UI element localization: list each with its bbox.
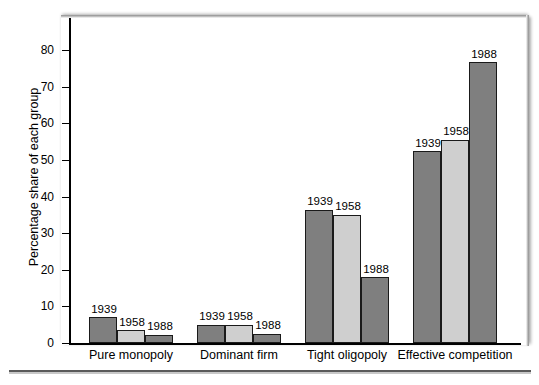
bar-1988-effective-competition[interactable] xyxy=(469,62,497,343)
y-tick-mark xyxy=(62,233,70,234)
y-tick-mark xyxy=(62,50,70,51)
bar-1939-dominant-firm[interactable] xyxy=(197,325,225,343)
bar-group-effective-competition: 193919581988 xyxy=(413,18,497,343)
bar-1988-dominant-firm[interactable] xyxy=(253,334,281,343)
y-tick-mark xyxy=(62,343,70,344)
bar-value-label: 1958 xyxy=(332,201,364,213)
bar-value-label: 1939 xyxy=(88,304,120,316)
bar-1939-effective-competition[interactable] xyxy=(413,151,441,343)
bar-1958-tight-oligopoly[interactable] xyxy=(333,215,361,343)
y-tick-mark xyxy=(62,306,70,307)
bar-value-label: 1958 xyxy=(440,126,472,138)
footer-rule-shadow xyxy=(9,372,531,374)
y-tick-mark xyxy=(62,87,70,88)
bar-value-label: 1988 xyxy=(144,321,176,333)
bar-groups: 1939195819881939195819881939195819881939… xyxy=(71,18,521,343)
x-axis-line xyxy=(69,343,521,345)
bar-chart-figure: 01020304050607080 Percentage share of ea… xyxy=(0,0,539,385)
bar-1988-tight-oligopoly[interactable] xyxy=(361,277,389,343)
y-tick-mark xyxy=(62,123,70,124)
bar-value-label: 1988 xyxy=(360,264,392,276)
x-label-effective-competition: Effective competition xyxy=(383,348,527,362)
bar-1939-pure-monopoly[interactable] xyxy=(89,317,117,343)
bar-group-pure-monopoly: 193919581988 xyxy=(89,18,173,343)
bar-value-label: 1988 xyxy=(252,320,284,332)
y-tick-label: 0 xyxy=(24,337,54,349)
y-tick-mark xyxy=(62,197,70,198)
y-axis-title: Percentage share of each group xyxy=(27,47,41,307)
frame-right-shadow xyxy=(526,15,529,346)
bar-1939-tight-oligopoly[interactable] xyxy=(305,210,333,343)
bar-1958-dominant-firm[interactable] xyxy=(225,325,253,343)
bar-value-label: 1939 xyxy=(412,138,444,150)
bar-value-label: 1988 xyxy=(468,49,500,61)
bar-1988-pure-monopoly[interactable] xyxy=(145,335,173,343)
bar-1958-pure-monopoly[interactable] xyxy=(117,330,145,343)
y-tick-mark xyxy=(62,160,70,161)
bar-1958-effective-competition[interactable] xyxy=(441,140,469,343)
y-tick-0: 0 xyxy=(0,343,70,344)
y-tick-mark xyxy=(62,270,70,271)
bar-group-dominant-firm: 193919581988 xyxy=(197,18,281,343)
bar-group-tight-oligopoly: 193919581988 xyxy=(305,18,389,343)
